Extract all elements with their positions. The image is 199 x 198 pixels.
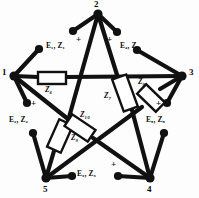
impedance-label-z8: Z₈ <box>138 78 145 86</box>
node-label-5: 5 <box>43 185 48 194</box>
node-label-2: 2 <box>94 0 99 9</box>
terminal-dot-e2-a <box>23 99 31 107</box>
impedance-label-z9: Z₉ <box>71 134 78 142</box>
impedance-label-z10: Z₁₀ <box>80 111 90 119</box>
node-dot-1 <box>9 71 18 80</box>
source-line-term-e4b-to-3 <box>137 50 182 76</box>
terminal-dot-e3-a <box>68 172 76 180</box>
terminal-dot-e5-b <box>160 129 168 137</box>
polarity-plus-e3: + <box>111 160 116 169</box>
source-label-e2: E₂, Z₂ <box>9 116 28 124</box>
terminal-dot-e3-b <box>114 172 122 180</box>
node-dot-4 <box>145 173 154 182</box>
circuit-diagram-figure: 1 2 3 4 5 E₁, Z₁ E₂, Z₂ E₃, Z₃ E₄, Z₄ E₅… <box>0 0 199 198</box>
source-label-e5: E₅, Z₅ <box>146 116 165 124</box>
polarity-plus-e5: + <box>156 99 161 108</box>
node-dot-3 <box>177 71 186 80</box>
terminal-dot-e1-a <box>35 45 43 53</box>
terminal-dot-e4-a <box>113 28 121 36</box>
impedance-label-z7: Z₇ <box>104 92 111 100</box>
node-dot-2 <box>93 9 102 18</box>
polarity-plus-e1: + <box>76 35 81 44</box>
node-dot-5 <box>41 173 50 182</box>
source-line-term-e2b-to-5 <box>33 133 46 178</box>
source-label-e1: E₁, Z₁ <box>46 42 65 50</box>
source-line-1-to-term-e1a <box>14 49 39 76</box>
impedance-label-z6: Z₆ <box>45 86 52 94</box>
source-line-term-e3b-to-4 <box>118 176 150 178</box>
node-label-4: 4 <box>147 185 152 194</box>
terminal-dot-e2-b <box>29 129 37 137</box>
polarity-plus-e4: + <box>107 35 112 44</box>
polarity-plus-e2: + <box>31 99 36 108</box>
circuit-schematic-canvas <box>0 0 199 198</box>
impedance-box-z6 <box>38 72 66 84</box>
source-label-e4: E₄, Z₄ <box>120 42 139 50</box>
impedance-box-z7 <box>112 74 138 111</box>
node-label-3: 3 <box>189 68 194 77</box>
node-label-1: 1 <box>2 68 7 77</box>
source-line-term-e5b-to-4 <box>150 133 164 178</box>
source-label-e3: E₃, Z₃ <box>77 170 96 178</box>
